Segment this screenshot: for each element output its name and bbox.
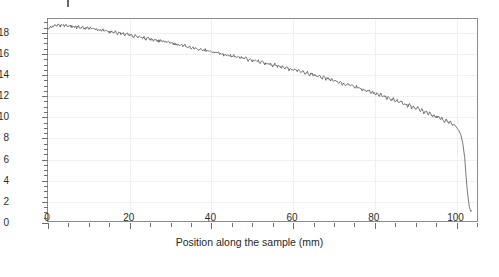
y-tick-label: 16 [0,47,9,58]
x-tick-major [375,223,376,229]
x-tick-major [211,223,212,229]
x-tick-major [48,223,49,229]
y-tick-label: 18 [0,26,9,37]
y-tick-label: 4 [3,174,9,185]
x-tick-minor [252,223,253,227]
y-tick-label: 12 [0,90,9,101]
x-tick-minor [109,223,110,227]
y-tick-label: 8 [3,132,9,143]
y-tick-label: 14 [0,69,9,80]
y-tick-label: 6 [3,153,9,164]
x-tick-label: 100 [447,212,464,223]
x-tick-minor [314,223,315,227]
x-tick-minor [171,223,172,227]
x-tick-minor [334,223,335,227]
x-tick-label: 60 [287,212,298,223]
x-tick-label: 20 [123,212,134,223]
y-tick-label: 10 [0,111,9,122]
x-tick-minor [395,223,396,227]
cropped-top-artifact [67,0,69,7]
x-tick-label: 80 [368,212,379,223]
x-tick-minor [477,223,478,227]
x-tick-minor [436,223,437,227]
x-tick-minor [191,223,192,227]
x-tick-minor [354,223,355,227]
x-tick-minor [273,223,274,227]
x-tick-label: 40 [205,212,216,223]
x-tick-minor [89,223,90,227]
x-axis-label: Position along the sample (mm) [176,236,324,248]
x-tick-label: 0 [44,212,50,223]
chart-figure: 024681012141618 020406080100 Deformation… [0,0,499,277]
data-series-line [48,19,479,223]
plot-area [47,18,478,222]
x-tick-minor [232,223,233,227]
x-tick-major [293,223,294,229]
x-tick-major [130,223,131,229]
y-tick-label: 0 [3,217,9,228]
x-tick-minor [150,223,151,227]
y-tick-label: 2 [3,195,9,206]
x-tick-minor [68,223,69,227]
x-tick-major [457,223,458,229]
x-tick-minor [416,223,417,227]
